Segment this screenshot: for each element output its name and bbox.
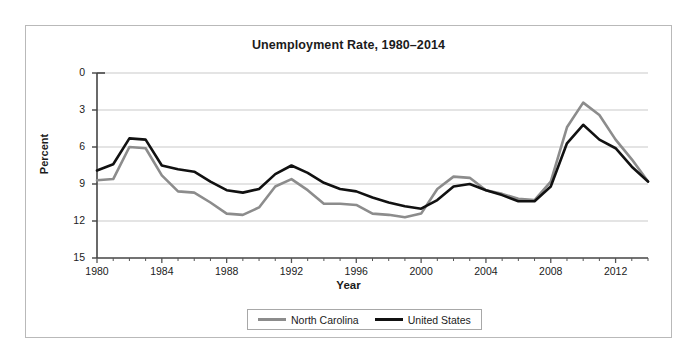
series-line-north-carolina (97, 103, 648, 218)
y-tick-label: 9 (63, 177, 85, 189)
y-tick-label: 12 (63, 214, 85, 226)
x-tick-label: 1988 (207, 265, 247, 277)
x-tick-label: 1996 (336, 265, 376, 277)
chart-legend: North Carolina United States (247, 309, 482, 330)
legend-swatch-united-states (375, 318, 403, 321)
y-tick-label: 0 (63, 66, 85, 78)
y-tick-label: 3 (63, 103, 85, 115)
legend-swatch-north-carolina (258, 318, 286, 321)
x-tick-label: 2012 (596, 265, 636, 277)
legend-item-north-carolina: North Carolina (258, 314, 359, 326)
legend-label-north-carolina: North Carolina (291, 314, 359, 326)
x-tick-label: 1984 (142, 265, 182, 277)
x-tick-label: 1980 (77, 265, 117, 277)
x-tick-label: 2004 (466, 265, 506, 277)
series-line-united-states (97, 125, 648, 209)
figure-frame: Unemployment Rate, 1980–2014 Percent Yea… (25, 25, 672, 338)
chart-figure: Unemployment Rate, 1980–2014 Percent Yea… (0, 0, 698, 363)
x-tick-label: 2008 (531, 265, 571, 277)
legend-label-united-states: United States (408, 314, 471, 326)
x-tick-label: 2000 (401, 265, 441, 277)
x-tick-label: 1992 (271, 265, 311, 277)
y-tick-label: 6 (63, 140, 85, 152)
plot-area (26, 26, 673, 337)
y-tick-label: 15 (63, 251, 85, 263)
legend-item-united-states: United States (375, 314, 471, 326)
